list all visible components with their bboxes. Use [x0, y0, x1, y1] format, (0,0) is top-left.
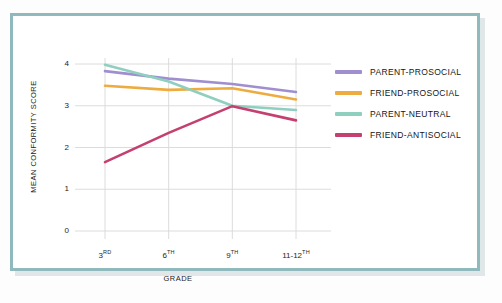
figure-root: 43210 3RD6TH9TH11-12TH MEAN CONFORMITY S… [0, 0, 502, 303]
plot-area: 43210 3RD6TH9TH11-12TH MEAN CONFORMITY S… [13, 16, 477, 268]
y-tick-label: 4 [49, 59, 69, 68]
y-axis-title: MEAN CONFORMITY SCORE [29, 77, 38, 197]
y-tick-label: 0 [49, 226, 69, 235]
x-tick-label: 3RD [99, 249, 112, 260]
x-tick-label: 9TH [226, 249, 238, 260]
legend-swatch-icon [335, 133, 362, 137]
y-tick-label: 3 [49, 101, 69, 110]
chart-frame: 43210 3RD6TH9TH11-12TH MEAN CONFORMITY S… [10, 13, 480, 271]
legend-item-label: FRIEND-PROSOCIAL [370, 88, 460, 98]
legend-item[interactable]: FRIEND-PROSOCIAL [335, 84, 461, 101]
legend-item-label: PARENT-NEUTRAL [370, 109, 451, 119]
legend-item[interactable]: PARENT-NEUTRAL [335, 105, 461, 122]
legend-item[interactable]: FRIEND-ANTISOCIAL [335, 126, 461, 143]
x-axis-title: GRADE [13, 274, 343, 283]
legend-item[interactable]: PARENT-PROSOCIAL [335, 63, 461, 80]
legend-item-label: FRIEND-ANTISOCIAL [370, 130, 461, 140]
legend-swatch-icon [335, 91, 362, 95]
y-tick-label: 1 [49, 184, 69, 193]
legend-swatch-icon [335, 70, 362, 74]
x-tick-label: 11-12TH [282, 249, 310, 260]
legend-item-label: PARENT-PROSOCIAL [370, 67, 461, 77]
legend-swatch-icon [335, 112, 362, 116]
x-tick-label: 6TH [163, 249, 175, 260]
chart-legend: PARENT-PROSOCIALFRIEND-PROSOCIALPARENT-N… [335, 63, 461, 147]
y-tick-label: 2 [49, 143, 69, 152]
series-line-3 [105, 106, 296, 162]
